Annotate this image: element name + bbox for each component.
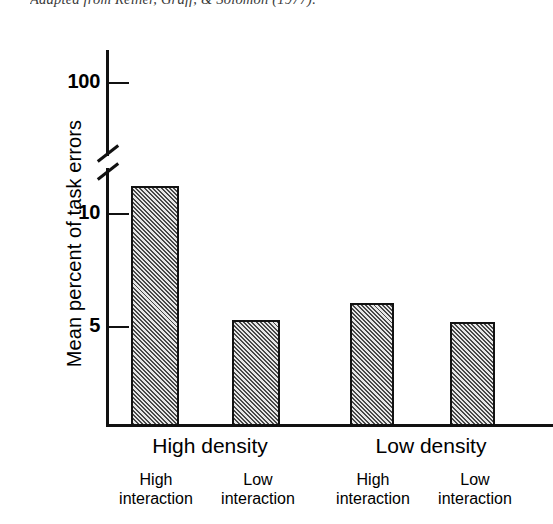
bar-low-density-high-interaction bbox=[350, 303, 394, 426]
bar-low-density-low-interaction bbox=[450, 322, 495, 426]
y-axis-title: Mean percent of task errors bbox=[63, 84, 86, 404]
y-tick-10 bbox=[109, 213, 129, 215]
y-axis-line-lower bbox=[106, 168, 109, 426]
condition-label-line1: Low bbox=[427, 470, 523, 489]
y-tick-5 bbox=[109, 326, 129, 328]
condition-label-line2: interaction bbox=[325, 489, 421, 508]
y-axis-line-upper bbox=[106, 50, 109, 156]
condition-label-line2: interaction bbox=[210, 489, 306, 508]
y-tick-label-5: 5 bbox=[89, 314, 100, 337]
condition-label-high-density-low-interaction: Low interaction bbox=[210, 470, 306, 508]
bar-chart: 100 10 5 Mean percent of task errors Hig… bbox=[0, 0, 553, 524]
condition-label-line1: High bbox=[108, 470, 204, 489]
y-tick-100 bbox=[109, 82, 129, 84]
condition-label-low-density-low-interaction: Low interaction bbox=[427, 470, 523, 508]
group-label-low-density: Low density bbox=[336, 434, 526, 458]
condition-label-line2: interaction bbox=[108, 489, 204, 508]
condition-label-high-density-high-interaction: High interaction bbox=[108, 470, 204, 508]
condition-label-line2: interaction bbox=[427, 489, 523, 508]
condition-label-low-density-high-interaction: High interaction bbox=[325, 470, 421, 508]
group-label-high-density: High density bbox=[115, 434, 305, 458]
bar-high-density-low-interaction bbox=[232, 320, 280, 426]
condition-label-line1: High bbox=[325, 470, 421, 489]
condition-label-line1: Low bbox=[210, 470, 306, 489]
bar-high-density-high-interaction bbox=[131, 186, 179, 426]
